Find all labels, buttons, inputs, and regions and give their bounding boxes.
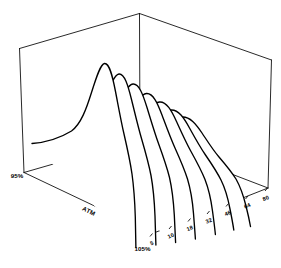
frame-left-vertical-edge xyxy=(20,49,25,173)
frame-top-left-edge xyxy=(20,14,140,49)
tick-label-64: 64 xyxy=(243,201,252,209)
axis-label-105-percent: 105% xyxy=(135,245,151,252)
ridge-curve-group xyxy=(32,63,251,247)
frame-top-right-edge xyxy=(140,14,272,61)
chart-canvas: 5 10 18 32 46 64 80 ATM 95% 105% xyxy=(0,0,281,268)
frame-right-vertical-edge xyxy=(268,60,272,188)
tick-label-80: 80 xyxy=(262,194,270,202)
chart-3d-waterfall-plot: 5 10 18 32 46 64 80 ATM 95% 105% xyxy=(0,0,281,268)
axis-label-95-percent: 95% xyxy=(11,172,24,179)
